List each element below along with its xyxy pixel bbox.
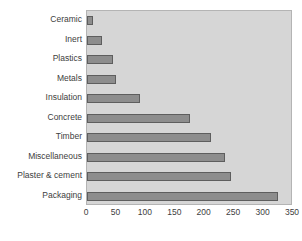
bars-layer xyxy=(87,11,291,204)
y-axis-label-insulation: Insulation xyxy=(0,93,82,102)
bar-ceramic xyxy=(87,16,93,25)
bar-row xyxy=(87,75,291,84)
bar-plastics xyxy=(87,55,113,64)
bar-row xyxy=(87,36,291,45)
bar-row xyxy=(87,172,291,181)
bar-row xyxy=(87,55,291,64)
y-axis-label-timber: Timber xyxy=(0,132,82,141)
x-axis-tick-300: 300 xyxy=(255,207,269,217)
y-axis-label-ceramic: Ceramic xyxy=(0,15,82,24)
chart-title xyxy=(86,0,292,2)
bar-insulation xyxy=(87,94,140,103)
x-axis-tick-labels: 050100150200250300350 xyxy=(86,207,292,221)
bar-concrete xyxy=(87,114,190,123)
y-axis-label-plaster-cement: Plaster & cement xyxy=(0,171,82,180)
y-axis-label-inert: Inert xyxy=(0,35,82,44)
x-axis-tick-150: 150 xyxy=(167,207,181,217)
bar-row xyxy=(87,114,291,123)
y-axis-category-labels: CeramicInertPlasticsMetalsInsulationConc… xyxy=(0,10,82,205)
y-axis-label-plastics: Plastics xyxy=(0,54,82,63)
bar-chart: CeramicInertPlasticsMetalsInsulationConc… xyxy=(0,0,302,241)
x-axis-tick-50: 50 xyxy=(111,207,120,217)
plot-area xyxy=(86,10,292,205)
bar-row xyxy=(87,133,291,142)
bar-inert xyxy=(87,36,102,45)
bar-metals xyxy=(87,75,116,84)
x-axis-tick-100: 100 xyxy=(138,207,152,217)
x-axis-tick-0: 0 xyxy=(84,207,89,217)
y-axis-label-miscellaneous: Miscellaneous xyxy=(0,152,82,161)
y-axis-label-concrete: Concrete xyxy=(0,113,82,122)
bar-timber xyxy=(87,133,211,142)
bar-packaging xyxy=(87,192,278,201)
x-axis-tick-350: 350 xyxy=(285,207,299,217)
bar-row xyxy=(87,94,291,103)
bar-row xyxy=(87,16,291,25)
bar-plaster-cement xyxy=(87,172,231,181)
bar-row xyxy=(87,153,291,162)
y-axis-label-metals: Metals xyxy=(0,74,82,83)
x-axis-tick-200: 200 xyxy=(197,207,211,217)
bar-miscellaneous xyxy=(87,153,225,162)
x-axis-tick-250: 250 xyxy=(226,207,240,217)
bar-row xyxy=(87,192,291,201)
y-axis-label-packaging: Packaging xyxy=(0,191,82,200)
